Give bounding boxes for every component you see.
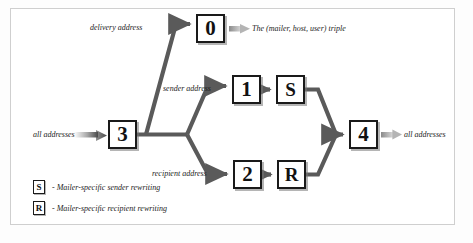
node-ruleset-2[interactable]: 2 xyxy=(233,160,262,189)
node-mailer-recipient[interactable]: R xyxy=(277,160,306,189)
node-label: 3 xyxy=(117,124,128,145)
node-ruleset-0[interactable]: 0 xyxy=(196,14,225,43)
label-sender-address: sender address xyxy=(163,85,211,93)
node-ruleset-1[interactable]: 1 xyxy=(232,75,261,104)
node-mailer-sender[interactable]: S xyxy=(276,75,305,104)
diagram-frame xyxy=(10,8,455,225)
node-label: 1 xyxy=(241,79,252,100)
label-delivery-address: delivery address xyxy=(90,24,142,32)
node-ruleset-3[interactable]: 3 xyxy=(108,120,137,149)
label-all-addresses-in: all addresses xyxy=(33,131,75,139)
legend-symbol-sender: S xyxy=(33,180,45,194)
legend-symbol-recipient: R xyxy=(33,201,45,215)
legend-text-recipient: - Mailer-specific recipient rewriting xyxy=(52,205,167,213)
node-label: R xyxy=(285,165,299,184)
node-label: 2 xyxy=(242,164,253,185)
diagram-canvas: 0 1 S 3 4 2 R delivery address The (mail… xyxy=(0,0,473,243)
label-all-addresses-out: all addresses xyxy=(404,131,446,139)
legend-text-sender: - Mailer-specific sender rewriting xyxy=(52,184,160,192)
label-mailer-host-user-triple: The (mailer, host, user) triple xyxy=(252,25,346,33)
node-ruleset-4[interactable]: 4 xyxy=(349,120,378,149)
legend-symbol-label: S xyxy=(36,183,41,192)
label-recipient-address: recipient address xyxy=(152,170,207,178)
legend-symbol-label: R xyxy=(36,204,43,213)
node-label: S xyxy=(285,80,296,99)
node-label: 4 xyxy=(358,124,369,145)
node-label: 0 xyxy=(205,18,216,39)
